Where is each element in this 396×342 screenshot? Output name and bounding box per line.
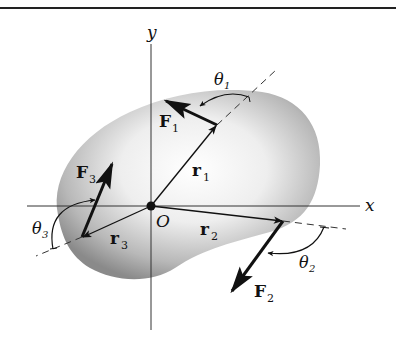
origin-label: O — [156, 211, 170, 231]
svg-text:r: r — [200, 219, 210, 239]
svg-text:2: 2 — [211, 230, 218, 243]
svg-text:2: 2 — [267, 292, 274, 305]
svg-text:1: 1 — [224, 80, 230, 91]
rigid-body — [57, 90, 320, 279]
svg-text:r: r — [110, 228, 120, 248]
theta3-label: θ 3 — [32, 219, 48, 240]
svg-text:θ: θ — [299, 253, 309, 272]
svg-text:F: F — [159, 111, 171, 131]
svg-text:3: 3 — [121, 239, 128, 252]
svg-text:θ: θ — [214, 70, 224, 89]
rigid-body-force-diagram: y x O F 1 F 2 F 3 r 1 r 2 r 3 — [0, 0, 396, 342]
y-axis-label: y — [146, 22, 157, 42]
origin-point — [147, 202, 156, 211]
svg-text:3: 3 — [42, 229, 48, 240]
theta1-label: θ 1 — [214, 70, 230, 91]
theta2-label: θ 2 — [299, 253, 315, 274]
theta3-tick — [50, 248, 57, 249]
svg-text:F: F — [254, 281, 266, 301]
svg-text:1: 1 — [203, 171, 210, 184]
svg-text:F: F — [76, 162, 88, 182]
svg-text:3: 3 — [89, 173, 96, 186]
svg-text:r: r — [192, 160, 202, 180]
r2-extension-dashed — [283, 221, 346, 229]
svg-text:θ: θ — [32, 219, 42, 238]
svg-text:1: 1 — [172, 122, 179, 135]
x-axis-label: x — [365, 195, 375, 215]
F2-label: F 2 — [254, 281, 274, 305]
theta2-tick — [320, 227, 329, 228]
svg-text:2: 2 — [308, 263, 315, 274]
